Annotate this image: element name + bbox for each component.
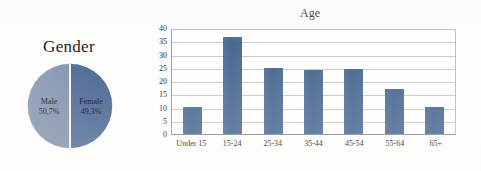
y-axis-tick-labels: 0510152025303540 bbox=[138, 23, 167, 141]
x-axis-tick-label: 15-24 bbox=[212, 139, 253, 148]
y-axis-tick-label: 35 bbox=[138, 37, 167, 46]
bar-slot bbox=[172, 30, 212, 134]
pie-label-male: Male 50,7% bbox=[29, 97, 69, 117]
x-axis-tick-labels: Under 1515-2425-3435-4445-5455-6465+ bbox=[171, 139, 456, 148]
bar bbox=[344, 69, 363, 134]
pie-label-female: Female 49,3% bbox=[71, 97, 111, 117]
x-axis-tick-label: 35-44 bbox=[293, 139, 334, 148]
bar bbox=[304, 70, 323, 134]
pie-label-female-percent: 49,3% bbox=[71, 107, 111, 117]
gender-chart-title: Gender bbox=[0, 37, 138, 57]
y-axis-tick-label: 15 bbox=[138, 90, 167, 99]
y-axis-tick-label: 20 bbox=[138, 77, 167, 86]
bar-series bbox=[172, 30, 455, 134]
y-axis-tick-label: 10 bbox=[138, 104, 167, 113]
plot-area bbox=[171, 29, 456, 135]
bar bbox=[425, 107, 444, 134]
bar-slot bbox=[253, 30, 293, 134]
pie-label-male-name: Male bbox=[41, 97, 57, 106]
figure-container: Gender Male 50,7% Female 49,3% Age 05101… bbox=[0, 0, 481, 171]
x-axis-tick-label: 25-34 bbox=[252, 139, 293, 148]
x-axis-tick-label: 65+ bbox=[415, 139, 456, 148]
bar bbox=[385, 89, 404, 134]
y-axis-tick-label: 25 bbox=[138, 64, 167, 73]
x-axis-tick-label: Under 15 bbox=[171, 139, 212, 148]
bar bbox=[223, 37, 242, 134]
gender-pie-chart: Gender Male 50,7% Female 49,3% bbox=[0, 0, 138, 171]
bar-slot bbox=[293, 30, 333, 134]
age-bar-chart: Age 0510152025303540 Under 1515-2425-343… bbox=[138, 0, 481, 171]
age-chart-title: Age bbox=[160, 6, 460, 21]
y-axis-tick-label: 30 bbox=[138, 51, 167, 60]
bar-slot bbox=[212, 30, 252, 134]
bar bbox=[183, 107, 202, 134]
bar-slot bbox=[374, 30, 414, 134]
bar bbox=[264, 68, 283, 134]
y-axis-tick-label: 0 bbox=[138, 130, 167, 139]
bar-slot bbox=[334, 30, 374, 134]
y-axis-tick-label: 5 bbox=[138, 117, 167, 126]
x-axis-tick-label: 55-64 bbox=[375, 139, 416, 148]
pie-graphic: Male 50,7% Female 49,3% bbox=[28, 64, 112, 148]
x-axis-tick-label: 45-54 bbox=[334, 139, 375, 148]
pie-label-male-percent: 50,7% bbox=[29, 107, 69, 117]
pie-label-female-name: Female bbox=[79, 97, 103, 106]
y-axis-tick-label: 40 bbox=[138, 24, 167, 33]
bar-slot bbox=[415, 30, 455, 134]
